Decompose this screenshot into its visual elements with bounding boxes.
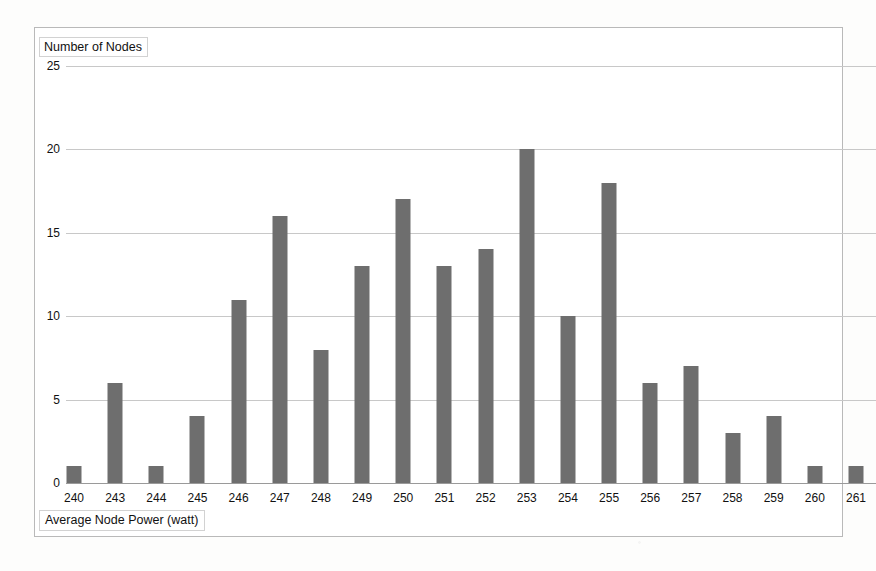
bar: [766, 416, 781, 483]
x-axis-tick-label: 252: [476, 492, 496, 504]
y-axis-tick-label: 20: [47, 143, 60, 155]
x-axis-tick-label: 259: [764, 492, 784, 504]
bar: [396, 199, 411, 483]
plot-area: 0510152025 24024324424524624724824925025…: [74, 66, 856, 483]
y-axis-tick-label: 10: [47, 310, 60, 322]
bar: [684, 366, 699, 483]
x-axis-tick-label: 255: [599, 492, 619, 504]
bar: [807, 466, 822, 483]
x-axis-tick-label: 250: [393, 492, 413, 504]
y-axis-title: Number of Nodes: [39, 37, 148, 57]
x-axis-tick-label: 256: [640, 492, 660, 504]
bar: [602, 183, 617, 483]
x-axis-tick-label: 247: [270, 492, 290, 504]
bar: [437, 266, 452, 483]
x-axis-tick-label: 243: [105, 492, 125, 504]
bar: [313, 350, 328, 483]
x-axis-tick-label: 258: [723, 492, 743, 504]
bar: [519, 149, 534, 483]
y-axis-tick-label: 5: [53, 394, 60, 406]
x-axis-tick-label: 240: [64, 492, 84, 504]
x-axis-tick-label: 251: [434, 492, 454, 504]
bar: [231, 300, 246, 483]
bar: [643, 383, 658, 483]
x-axis-tick-label: 246: [229, 492, 249, 504]
x-axis-title: Average Node Power (watt): [39, 510, 205, 531]
chart-frame: Number of Nodes Average Node Power (watt…: [34, 27, 843, 537]
bar: [355, 266, 370, 483]
x-axis-tick-label: 245: [187, 492, 207, 504]
bar: [272, 216, 287, 483]
bar: [725, 433, 740, 483]
bar-series: [74, 66, 856, 483]
x-axis-tick-label: 260: [805, 492, 825, 504]
bar: [108, 383, 123, 483]
y-axis-tick-label: 25: [47, 60, 60, 72]
bar: [478, 249, 493, 483]
scanned-page: Number of Nodes Average Node Power (watt…: [0, 0, 876, 571]
x-axis-tick-label: 249: [352, 492, 372, 504]
bar: [560, 316, 575, 483]
x-axis-tick-label: 261: [846, 492, 866, 504]
y-axis-tick-label: 0: [53, 477, 60, 489]
bar: [190, 416, 205, 483]
bar: [849, 466, 864, 483]
bar: [149, 466, 164, 483]
x-axis-tick-label: 248: [311, 492, 331, 504]
bar: [67, 466, 82, 483]
gridline: [66, 483, 876, 484]
x-axis-tick-label: 254: [558, 492, 578, 504]
x-axis-tick-label: 253: [517, 492, 537, 504]
x-axis-tick-label: 257: [681, 492, 701, 504]
x-axis-tick-label: 244: [146, 492, 166, 504]
y-axis-tick-label: 15: [47, 227, 60, 239]
